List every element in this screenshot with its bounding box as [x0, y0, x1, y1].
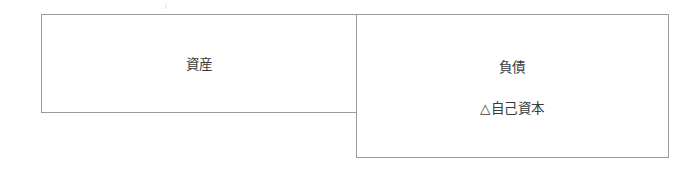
liabilities-equity-label-stack: 負債 △自己資本 — [480, 61, 545, 116]
negative-equity-label: △自己資本 — [480, 102, 545, 116]
scan-artifact-speck — [165, 3, 167, 9]
diagram-canvas: 資産 負債 △自己資本 — [0, 0, 700, 169]
assets-label: 資産 — [186, 58, 213, 72]
assets-block: 資産 — [41, 14, 357, 113]
liabilities-equity-block: 負債 △自己資本 — [356, 14, 669, 158]
liabilities-label: 負債 — [499, 61, 526, 75]
